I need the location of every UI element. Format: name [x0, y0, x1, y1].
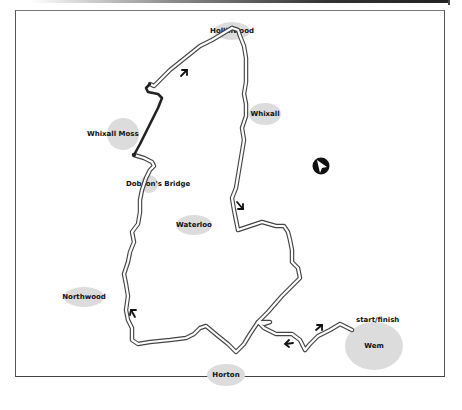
direction-arrow-icon: [316, 325, 322, 330]
direction-arrow-icon: [130, 310, 136, 317]
north-arrow-icon: [313, 158, 330, 175]
direction-arrow-icon: [181, 70, 187, 76]
route-highlight-segment: [134, 84, 162, 155]
direction-arrow-icon: [285, 340, 293, 347]
direction-arrow-icon: [237, 202, 243, 209]
route: [124, 28, 352, 352]
route-map: [0, 0, 462, 410]
